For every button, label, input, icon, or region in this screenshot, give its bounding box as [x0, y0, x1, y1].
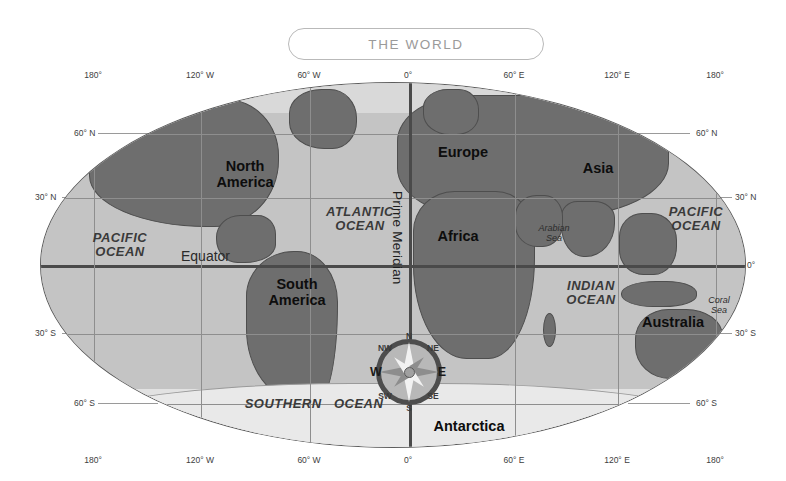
lon-tick-bottom-0: 180°: [84, 455, 102, 465]
page-title: THE WORLD: [368, 37, 463, 52]
lon-tick-top-2: 60° W: [297, 70, 320, 80]
label-arctic-ocean-west: ARCTIC OCEAN: [163, 92, 233, 111]
lon-tick-bottom-2: 60° W: [297, 455, 320, 465]
label-arabian-sea: Arabian Sea: [527, 223, 581, 243]
compass-label-east: E: [438, 365, 446, 379]
landmass-greenland: [289, 89, 357, 149]
compass-label-west: W: [370, 365, 382, 379]
label-pacific-ocean-west: PACIFIC OCEAN: [61, 231, 179, 259]
lon-tick-bottom-6: 180°: [706, 455, 724, 465]
meridian-60w: [310, 83, 311, 447]
world-map[interactable]: ARCTIC OCEAN ARCTIC OCEAN PACIFIC OCEAN …: [40, 82, 746, 448]
meridian-60e: [515, 83, 516, 447]
lon-tick-top-3: 0°: [404, 70, 412, 80]
lon-tick-top-0: 180°: [84, 70, 102, 80]
landmass-south-america: [246, 251, 338, 401]
lon-tick-top-4: 60° E: [504, 70, 525, 80]
label-antarctica: Antarctica: [417, 419, 521, 435]
lon-tick-top-1: 120° W: [186, 70, 214, 80]
lon-tick-bottom-5: 120° E: [604, 455, 630, 465]
compass-rose[interactable]: W E N S NW NE SW SE: [370, 333, 448, 411]
meridian-120e: [618, 83, 619, 447]
compass-label-northeast: NE: [427, 343, 439, 353]
meridian-120w: [201, 83, 202, 447]
world-map-page: THE WORLD 180° 120° W 60° W 0° 60° E 120…: [0, 0, 786, 481]
compass-label-northwest: NW: [378, 343, 392, 353]
label-europe: Europe: [419, 145, 507, 161]
lat-tick-right-2: 0°: [747, 260, 755, 270]
label-coral-sea: Coral Sea: [696, 295, 742, 315]
compass-hub: [404, 367, 415, 378]
label-prime-meridian: Prime Meridian: [389, 191, 404, 341]
map-title-pill: THE WORLD: [288, 28, 544, 60]
landmass-madagascar: [543, 313, 556, 347]
compass-label-south: S: [406, 403, 412, 413]
label-south-america: South America: [243, 277, 351, 308]
map-canvas: ARCTIC OCEAN ARCTIC OCEAN PACIFIC OCEAN …: [40, 82, 746, 448]
label-equator: Equator: [181, 249, 230, 264]
meridian-180e: [716, 83, 717, 447]
label-new-zealand: New Zealand: [697, 339, 746, 363]
lon-tick-bottom-3: 0°: [404, 455, 412, 465]
label-pacific-ocean-east: PACIFIC OCEAN: [641, 205, 746, 233]
lon-tick-top-6: 180°: [706, 70, 724, 80]
compass-label-southeast: SE: [427, 391, 438, 401]
label-north-america: North America: [191, 159, 299, 190]
lon-tick-bottom-4: 60° E: [504, 455, 525, 465]
label-indian-ocean: INDIAN OCEAN: [535, 279, 647, 307]
compass-label-north: N: [406, 331, 412, 341]
label-africa: Africa: [417, 229, 499, 245]
label-australia: Australia: [627, 315, 719, 331]
label-arctic-ocean-east: ARCTIC OCEAN: [533, 93, 653, 103]
label-asia: Asia: [563, 161, 633, 177]
meridian-180w: [94, 83, 95, 447]
compass-label-southwest: SW: [378, 391, 392, 401]
lon-tick-top-5: 120° E: [604, 70, 630, 80]
landmass-scandinavia: [423, 89, 479, 135]
lon-tick-bottom-1: 120° W: [186, 455, 214, 465]
latitude-line-60n: [41, 134, 745, 135]
